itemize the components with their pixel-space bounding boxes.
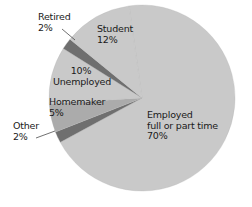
- label-student: Student 12%: [97, 24, 133, 45]
- label-unemployed-name: Unemployed: [53, 77, 109, 88]
- label-homemaker-value: 5%: [49, 108, 105, 119]
- label-student-value: 12%: [97, 35, 133, 46]
- label-retired: Retired 2%: [38, 12, 71, 33]
- label-homemaker: Homemaker 5%: [49, 97, 105, 118]
- label-homemaker-name: Homemaker: [49, 97, 105, 108]
- label-employed: Employed full or part time 70%: [147, 110, 218, 142]
- label-unemployed: 10% Unemployed: [53, 66, 109, 87]
- label-other: Other 2%: [13, 121, 39, 142]
- label-employed-name: Employed: [147, 110, 218, 121]
- label-other-value: 2%: [13, 132, 39, 143]
- label-retired-value: 2%: [38, 23, 71, 34]
- label-employed-value: 70%: [147, 131, 218, 142]
- label-retired-name: Retired: [38, 12, 71, 23]
- label-other-name: Other: [13, 121, 39, 132]
- label-student-name: Student: [97, 24, 133, 35]
- label-unemployed-value: 10%: [53, 66, 109, 77]
